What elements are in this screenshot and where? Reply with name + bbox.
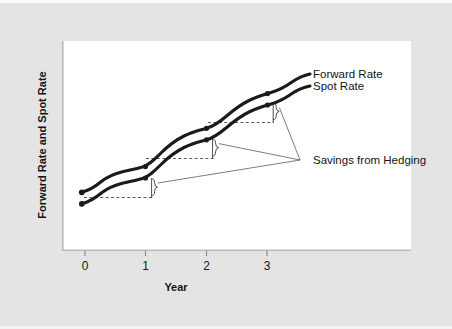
x-tick-label-0: 0 bbox=[82, 259, 89, 273]
y-axis-title: Forward Rate and Spot Rate bbox=[36, 71, 48, 218]
forward-rate-marker-year3 bbox=[265, 91, 270, 96]
annotation-label-savings-from-hedging: Savings from Hedging bbox=[313, 154, 426, 166]
legend-label-spot-rate: Spot Rate bbox=[313, 80, 364, 92]
spot-rate-marker-year1 bbox=[143, 175, 148, 180]
forward-rate-marker-year1 bbox=[143, 164, 148, 169]
x-tick-label-3: 3 bbox=[264, 259, 271, 273]
spot-rate-marker-year3 bbox=[265, 102, 270, 107]
x-tick-label-2: 2 bbox=[203, 259, 210, 273]
x-axis-title: Year bbox=[164, 281, 188, 293]
spot-rate-marker-year2 bbox=[204, 137, 209, 142]
x-axis-ticks bbox=[85, 251, 267, 257]
forward-rate-marker-year2 bbox=[204, 126, 209, 131]
legend-label-forward-rate: Forward Rate bbox=[313, 68, 383, 80]
chart-canvas: 0 1 2 3 Year Forward Rate and Spot Rate bbox=[0, 0, 452, 329]
figure-root: 0 1 2 3 Year Forward Rate and Spot Rate bbox=[0, 0, 452, 329]
forward-rate-start-marker bbox=[79, 189, 85, 195]
x-tick-label-1: 1 bbox=[142, 259, 149, 273]
spot-rate-start-marker bbox=[79, 201, 85, 207]
